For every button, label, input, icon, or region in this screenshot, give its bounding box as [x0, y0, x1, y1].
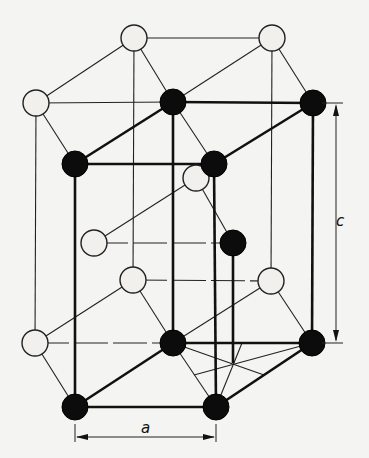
- dimension-c: c: [322, 103, 345, 343]
- atom-b: [203, 394, 229, 420]
- label-a: a: [141, 419, 150, 437]
- atom-a: [81, 230, 107, 256]
- unit-cell-thick-edges: [75, 102, 313, 407]
- atom-a: [259, 25, 285, 51]
- atom-b: [160, 89, 186, 115]
- atom-b: [62, 151, 88, 177]
- middle-layer-edges: [94, 178, 233, 243]
- atom-b: [299, 330, 325, 356]
- atom-a: [22, 330, 48, 356]
- hcp-crystal-diagram: c a: [0, 0, 369, 458]
- atom-b: [201, 151, 227, 177]
- atom-b: [220, 230, 246, 256]
- dimension-a: a: [75, 419, 216, 442]
- atom-a: [258, 268, 284, 294]
- atom-a: [120, 267, 146, 293]
- atom-b: [160, 330, 186, 356]
- atom-b: [62, 394, 88, 420]
- atom-a: [121, 25, 147, 51]
- atom-a: [23, 90, 49, 116]
- back-vertical-edges: [35, 38, 272, 343]
- label-c: c: [336, 212, 345, 230]
